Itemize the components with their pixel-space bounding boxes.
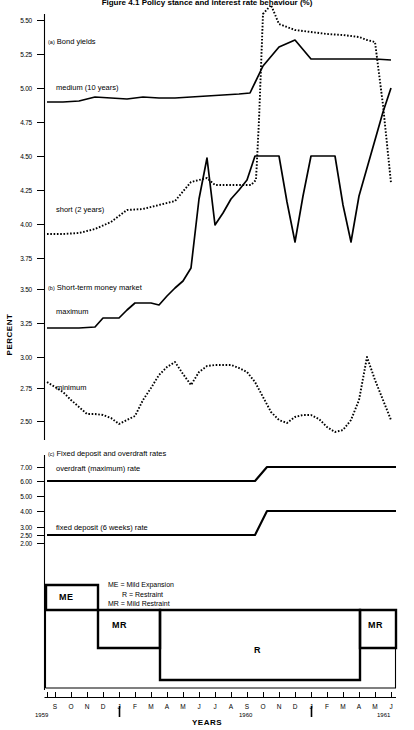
policy-box-me	[46, 585, 98, 610]
y-axis-ticks-upper	[37, 21, 45, 422]
chart-canvas	[0, 0, 414, 730]
policy-box-r	[160, 610, 360, 680]
chart-figure: Figure 4.1 Policy stance and interest ra…	[0, 0, 414, 730]
y-axis-ticks-lower	[37, 468, 45, 544]
policy-box-mr-right	[360, 610, 396, 648]
series-money-market-minimum	[47, 357, 391, 432]
policy-box-mr-left	[98, 610, 160, 648]
series-overdraft-maximum-rate	[47, 467, 396, 481]
series-fixed-deposit-rate	[47, 511, 396, 535]
x-axis-ticks	[48, 692, 392, 698]
series-money-market-maximum	[47, 88, 391, 328]
x-axis-year-separators	[120, 706, 312, 717]
series-short-2-years	[47, 5, 391, 234]
policy-stance-diagram	[46, 585, 397, 688]
series-medium-10-years	[47, 40, 391, 102]
